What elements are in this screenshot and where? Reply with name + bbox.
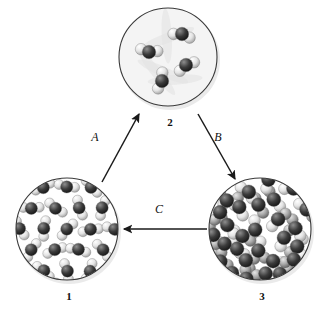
panel-label-2: 2	[160, 116, 180, 128]
arrow-label-b: B	[210, 131, 226, 144]
arrow-a	[102, 114, 139, 182]
panel-liquid-circle	[205, 174, 315, 284]
panel-label-1: 1	[59, 290, 79, 302]
arrow-b	[198, 114, 235, 179]
panel-gas-circle	[115, 4, 221, 110]
panel-label-3: 3	[252, 290, 272, 302]
figure-canvas: 1 2 3 A B C	[0, 0, 328, 312]
panel-solid-circle	[12, 174, 122, 284]
arrow-label-c: C	[151, 203, 167, 216]
arrow-label-a: A	[87, 131, 103, 144]
